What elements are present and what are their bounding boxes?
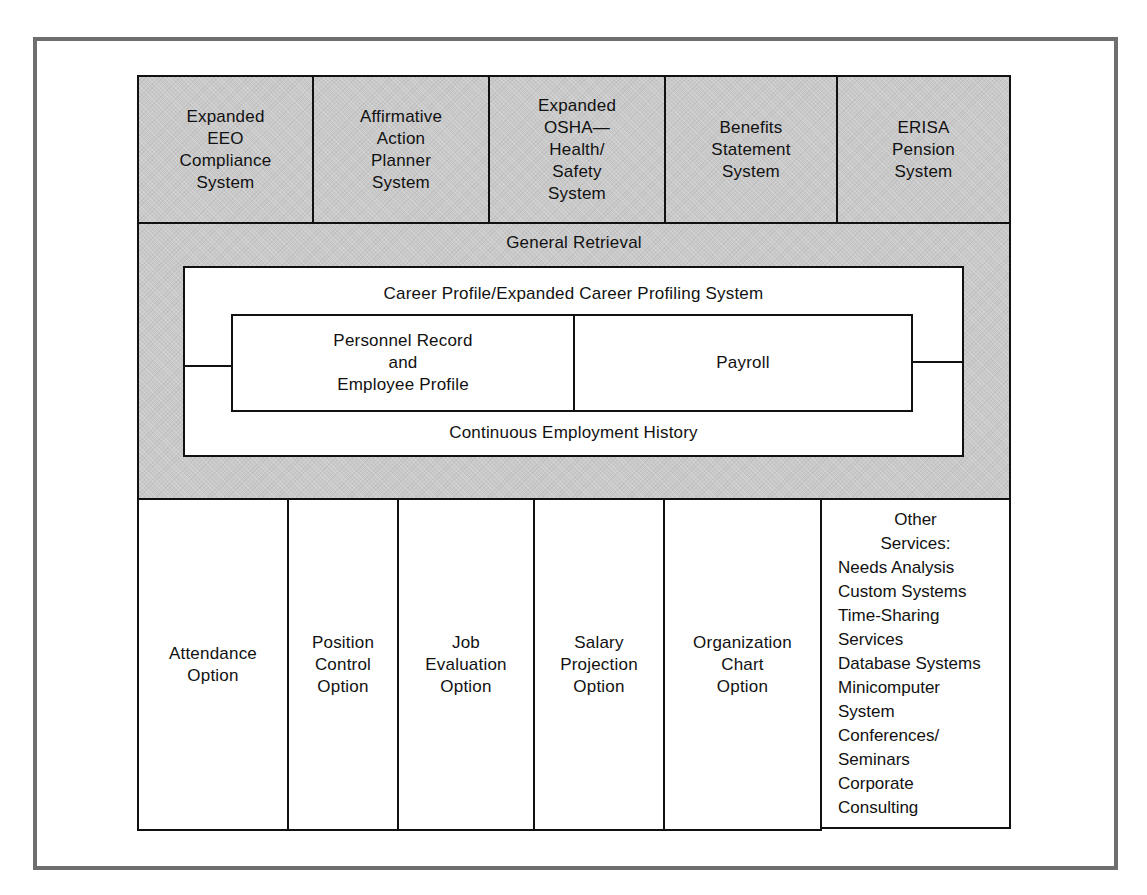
service-item: Services xyxy=(838,628,1009,652)
service-item: Needs Analysis xyxy=(838,556,1009,580)
payroll-label: Payroll xyxy=(716,352,769,374)
personnel-record-box: Personnel Record and Employee Profile xyxy=(231,314,575,412)
module-label: Expanded OSHA— Health/ Safety System xyxy=(538,95,616,205)
service-item: Database Systems xyxy=(838,652,1009,676)
service-item: Custom Systems xyxy=(838,580,1009,604)
module-benefits-statement: Benefits Statement System xyxy=(664,75,838,224)
general-retrieval-label: General Retrieval xyxy=(137,232,1011,254)
option-label: Job Evaluation Option xyxy=(425,632,506,698)
service-item: Minicomputer xyxy=(838,676,1009,700)
option-label: Organization Chart Option xyxy=(693,632,792,698)
service-item: Time-Sharing xyxy=(838,604,1009,628)
option-organization-chart: Organization Chart Option xyxy=(663,498,822,831)
module-eeo-compliance: Expanded EEO Compliance System xyxy=(137,75,314,224)
career-profile-label: Career Profile/Expanded Career Profiling… xyxy=(183,283,964,305)
connector-right xyxy=(912,361,963,363)
module-label: Expanded EEO Compliance System xyxy=(180,106,272,194)
module-label: ERISA Pension System xyxy=(892,117,955,183)
service-item: Conferences/ xyxy=(838,724,1009,748)
option-salary-projection: Salary Projection Option xyxy=(533,498,665,831)
option-attendance: Attendance Option xyxy=(137,498,289,831)
option-label: Salary Projection Option xyxy=(560,632,638,698)
personnel-record-label: Personnel Record and Employee Profile xyxy=(333,330,472,396)
option-position-control: Position Control Option xyxy=(287,498,399,831)
employment-history-label: Continuous Employment History xyxy=(183,422,964,444)
service-item: System xyxy=(838,700,1009,724)
option-label: Position Control Option xyxy=(312,632,374,698)
option-label: Attendance Option xyxy=(169,643,257,687)
payroll-box: Payroll xyxy=(573,314,913,412)
module-label: Affirmative Action Planner System xyxy=(360,106,442,194)
module-erisa-pension: ERISA Pension System xyxy=(836,75,1011,224)
module-affirmative-action: Affirmative Action Planner System xyxy=(312,75,490,224)
module-label: Benefits Statement System xyxy=(711,117,790,183)
other-services-box: Other Services: Needs Analysis Custom Sy… xyxy=(820,498,1011,829)
service-item: Seminars xyxy=(838,748,1009,772)
service-item: Consulting xyxy=(838,796,1009,820)
service-item: Corporate xyxy=(838,772,1009,796)
module-osha-health-safety: Expanded OSHA— Health/ Safety System xyxy=(488,75,666,224)
option-job-evaluation: Job Evaluation Option xyxy=(397,498,535,831)
other-services-heading: Other Services: xyxy=(822,508,1009,556)
connector-left xyxy=(184,365,232,367)
other-services-list: Needs Analysis Custom Systems Time-Shari… xyxy=(822,556,1009,820)
